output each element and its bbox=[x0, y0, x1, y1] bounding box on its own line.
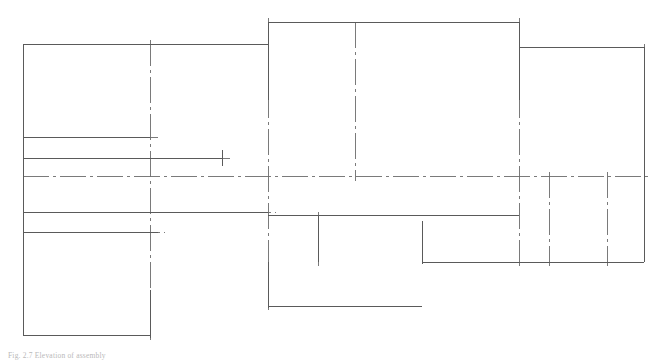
drawing-canvas bbox=[0, 0, 667, 360]
technical-drawing-view: Fig. 2.7 Elevation of assembly bbox=[0, 0, 667, 360]
figure-caption: Fig. 2.7 Elevation of assembly bbox=[8, 351, 106, 360]
